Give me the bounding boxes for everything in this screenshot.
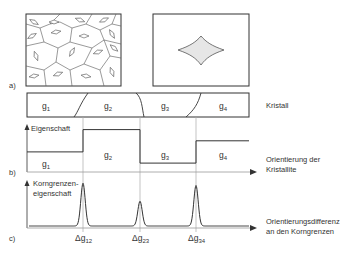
property-grain-1: g1 <box>42 159 51 170</box>
property-y-label: Eigenschaft <box>31 124 71 133</box>
polycrystal-box <box>26 14 121 86</box>
panel-label-a: a) <box>9 81 16 90</box>
property-grain-2: g2 <box>104 150 113 161</box>
property-grain-3: g3 <box>161 150 170 161</box>
property-y-arrow-icon <box>25 124 30 130</box>
property-plot: Eigenschaft g1 g2 g3 g4 Orientierung der… <box>25 124 321 175</box>
crystal-bar: g1 g2 g3 g4 <box>27 93 249 117</box>
panel-label-c: c) <box>9 234 16 243</box>
boundary-x-label-1: Orientierungsdifferenz <box>266 217 340 226</box>
panel-label-b: b) <box>9 168 16 177</box>
property-grain-4: g4 <box>219 150 228 161</box>
single-crystal-box <box>153 14 249 86</box>
property-x-arrow-icon <box>250 169 257 175</box>
diagram: a) g1 g2 g3 g4 Kristall Eigenschaft g1 g… <box>0 0 362 253</box>
boundary-x-label-2: an den Korngrenzen <box>266 227 334 236</box>
boundary-x-arrow-icon <box>250 225 257 231</box>
boundary-plot: Korngrenzen- eigenschaft Δg12 Δg23 Δg34 … <box>25 179 340 244</box>
peak-label-34: Δg34 <box>188 233 206 244</box>
boundary-y-arrow-icon <box>25 180 30 186</box>
peak-label-23: Δg23 <box>132 233 150 244</box>
boundary-y-label-2: eigenschaft <box>33 189 72 198</box>
crystal-label: Kristall <box>266 101 289 110</box>
peak-label-12: Δg12 <box>75 233 93 244</box>
property-x-label-2: Kristallite <box>266 165 296 174</box>
property-step-line <box>27 130 249 164</box>
boundary-y-label-1: Korngrenzen- <box>33 179 79 188</box>
property-x-label-1: Orientierung der <box>266 155 321 164</box>
